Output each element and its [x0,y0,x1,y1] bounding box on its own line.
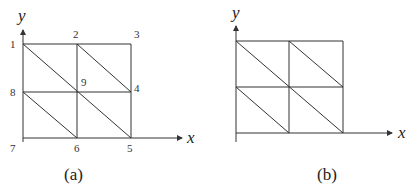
diagonal-lower-b [236,87,289,133]
diagonal-upper-b [289,41,343,87]
caption-a: (a) [64,165,83,184]
y-axis-label-a: y [16,6,26,25]
node-label-1: 1 [10,38,16,50]
figure-canvas: y x 1 2 3 4 5 6 7 8 9 (a) y x [0,0,414,187]
node-label-3: 3 [134,28,140,40]
x-axis-label-a: x [186,128,195,147]
caption-b: (b) [317,165,337,184]
node-label-4: 4 [134,82,140,94]
node-label-2: 2 [73,28,79,40]
y-axis-label-b: y [230,3,240,22]
node-label-6: 6 [74,142,80,154]
node-label-9: 9 [81,76,87,88]
x-axis-label-b: x [397,123,406,142]
node-label-5: 5 [127,142,133,154]
diagonal-lower-a [23,92,77,138]
figure-a: y x 1 2 3 4 5 6 7 8 9 (a) [10,6,195,184]
node-label-7: 7 [10,142,16,154]
node-label-8: 8 [10,86,16,98]
figure-b: y x (b) [230,3,406,184]
